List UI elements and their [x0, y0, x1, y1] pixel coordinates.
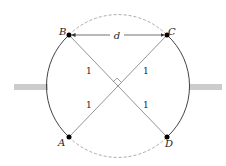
bottom-dashed-arc: [69, 137, 167, 157]
segment-label-co: 1: [143, 66, 149, 76]
point-a: [67, 135, 72, 140]
segment-label-bo: 1: [86, 66, 92, 76]
diagram-canvas: d B C A D 1 1 1 1: [0, 0, 226, 166]
label-d: D: [164, 138, 173, 149]
left-solid-arc: [46, 35, 69, 137]
label-b: B: [58, 26, 66, 37]
label-a: A: [57, 137, 65, 148]
distance-label: d: [114, 30, 120, 41]
right-angle-marker: [113, 78, 121, 82]
point-b: [67, 33, 72, 38]
right-solid-arc: [167, 35, 190, 137]
right-bar: [189, 84, 222, 90]
label-c: C: [168, 26, 176, 37]
segment-label-do: 1: [143, 100, 149, 110]
segment-label-ao: 1: [86, 100, 92, 110]
left-bar: [14, 84, 48, 90]
